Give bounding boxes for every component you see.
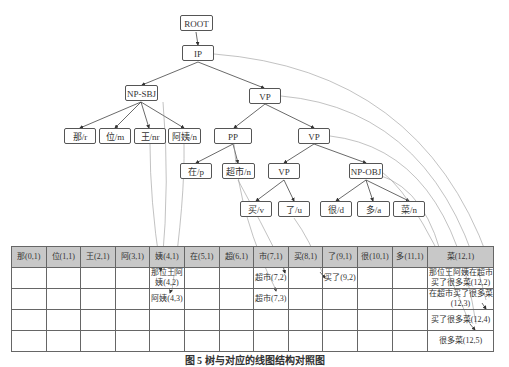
table-cell: 阿姨(4,3): [150, 289, 185, 310]
table-row: 那位王阿姨(4,2) 超市(7,2) 买了(9,2) 那位王阿姨在超市买了很多菜…: [12, 268, 494, 289]
table-cell: [288, 331, 323, 352]
tree-node-np-obj: NP-OBJ: [349, 163, 383, 179]
tree-node-vp2: VP: [298, 128, 330, 144]
header-cell: 姨(4,1): [150, 247, 185, 268]
table-cell: 超市(7,2): [254, 268, 289, 289]
table-cell: [185, 289, 220, 310]
tree-node-duo-a: 多/a: [357, 201, 390, 217]
table-cell: [81, 268, 116, 289]
tree-node-ip: IP: [182, 45, 214, 61]
table-cell: [81, 310, 116, 331]
table-cell: [219, 331, 254, 352]
table-cell: [393, 289, 428, 310]
table-cell: [219, 289, 254, 310]
tree-node-hen-d: 很/d: [320, 201, 352, 217]
table-cell: [288, 289, 323, 310]
tree-node-cai-n: 菜/n: [393, 201, 425, 217]
table-cell: [115, 268, 150, 289]
table-cell: [115, 289, 150, 310]
table-cell: 在超市买了很多菜(12,3): [428, 289, 494, 310]
header-cell: 市(7,1): [254, 247, 289, 268]
table-cell: [12, 310, 47, 331]
table-cell: [46, 289, 81, 310]
table-cell: [150, 310, 185, 331]
table-cell: [323, 289, 358, 310]
table-cell: [254, 310, 289, 331]
table-cell: 那位王阿姨在超市买了很多菜(12,2): [428, 268, 494, 289]
table-cell: [254, 331, 289, 352]
table-cell: [358, 289, 393, 310]
tree-node-vp3: VP: [268, 163, 300, 179]
table-cell: [185, 310, 220, 331]
header-cell: 王(2,1): [81, 247, 116, 268]
table-row: 买了很多菜(12,4): [12, 310, 494, 331]
tree-node-wang-nr: 王/nr: [134, 128, 166, 144]
tree-node-mai-v: 买/v: [240, 201, 272, 217]
table-cell: [150, 331, 185, 352]
tree-node-ayi-n: 阿姨/n: [168, 128, 201, 144]
table-cell: [12, 289, 47, 310]
table-cell: [288, 310, 323, 331]
table-cell: [323, 310, 358, 331]
table-cell: [393, 331, 428, 352]
table-cell: [46, 331, 81, 352]
table-cell: [46, 268, 81, 289]
table-cell: [358, 331, 393, 352]
table-cell: [219, 268, 254, 289]
table-row: 阿姨(4,3) 超市(7,3) 在超市买了很多菜(12,3): [12, 289, 494, 310]
table-row: 很多菜(12,5): [12, 331, 494, 352]
table-cell: [12, 331, 47, 352]
table-cell: [81, 289, 116, 310]
tree-node-wei-m: 位/m: [99, 128, 131, 144]
table-cell: [393, 310, 428, 331]
table-cell: [393, 268, 428, 289]
table-cell: [46, 310, 81, 331]
header-cell: 位(1,1): [46, 247, 81, 268]
table-header-row: 那(0,1) 位(1,1) 王(2,1) 阿(3,1) 姨(4,1) 在(5,1…: [12, 247, 494, 268]
header-cell: 阿(3,1): [115, 247, 150, 268]
tree-node-le-u: 了/u: [278, 201, 310, 217]
table-cell: [219, 310, 254, 331]
table-cell: [358, 268, 393, 289]
table-cell: 很多菜(12,5): [428, 331, 494, 352]
header-cell: 买(8,1): [288, 247, 323, 268]
header-cell: 了(9,1): [323, 247, 358, 268]
header-cell: 那(0,1): [12, 247, 47, 268]
header-cell: 很(10,1): [358, 247, 393, 268]
table-cell: [358, 310, 393, 331]
table-cell: [323, 331, 358, 352]
tree-node-na-r: 那/r: [64, 128, 96, 144]
table-cell: [185, 331, 220, 352]
header-cell: 在(5,1): [185, 247, 220, 268]
figure-caption: 图 5 树与对应的线图结构对照图: [0, 352, 509, 367]
table-cell: [81, 331, 116, 352]
tree-node-vp: VP: [249, 88, 281, 104]
table-cell: 买了很多菜(12,4): [428, 310, 494, 331]
table-cell: [12, 268, 47, 289]
chart-table: 那(0,1) 位(1,1) 王(2,1) 阿(3,1) 姨(4,1) 在(5,1…: [11, 246, 494, 352]
tree-node-zai-p: 在/p: [180, 163, 212, 179]
table-cell: 买了(9,2): [323, 268, 358, 289]
table-cell: 超市(7,3): [254, 289, 289, 310]
tree-node-root: ROOT: [180, 15, 213, 31]
header-cell: 多(11,1): [393, 247, 428, 268]
table-cell: 那位王阿姨(4,2): [150, 268, 185, 289]
table-cell: [288, 268, 323, 289]
table-cell: [115, 310, 150, 331]
table-cell: [115, 331, 150, 352]
tree-node-pp: PP: [214, 128, 252, 144]
tree-node-chaoshi-n: 超市/n: [222, 163, 255, 179]
header-cell: 超(6,1): [219, 247, 254, 268]
table-cell: [185, 268, 220, 289]
tree-node-np-sbj: NP-SBJ: [125, 85, 158, 101]
header-cell: 菜(12,1): [428, 247, 494, 268]
